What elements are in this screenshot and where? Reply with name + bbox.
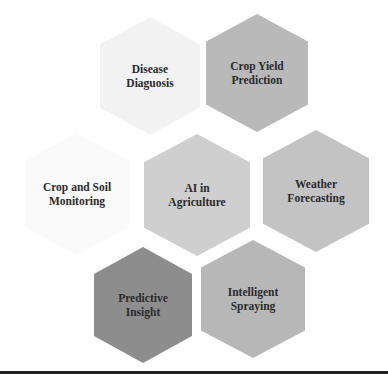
hexagon-shape <box>206 14 308 132</box>
hexagon-label: Crop and SoilMonitoring <box>43 181 111 208</box>
hexagon-label: DiseaseDiaguosis <box>126 63 174 90</box>
hexagon-spraying: IntelligentSpraying <box>201 240 305 358</box>
ai-agriculture-hexagon-diagram: DiseaseDiaguosisCrop YieldPredictionCrop… <box>0 0 388 380</box>
hexagon-label: IntelligentSpraying <box>228 286 279 313</box>
hexagon-ai-agriculture: AI inAgriculture <box>144 134 250 256</box>
hexagon-predictive: PredictiveInsight <box>94 247 192 363</box>
bottom-rule <box>0 371 388 374</box>
hexagon-shape <box>25 133 129 255</box>
hexagon-weather: WeatherForecasting <box>263 130 369 252</box>
hexagon-shape <box>94 247 192 363</box>
hexagon-shape <box>100 17 200 135</box>
hexagon-disease: DiseaseDiaguosis <box>100 17 200 135</box>
hexagon-shape <box>263 130 369 252</box>
hexagon-label: WeatherForecasting <box>287 178 345 205</box>
hexagon-shape <box>201 240 305 358</box>
hexagon-shape <box>144 134 250 256</box>
hexagon-crop-yield: Crop YieldPrediction <box>206 14 308 132</box>
hexagon-crop-soil: Crop and SoilMonitoring <box>25 133 129 255</box>
